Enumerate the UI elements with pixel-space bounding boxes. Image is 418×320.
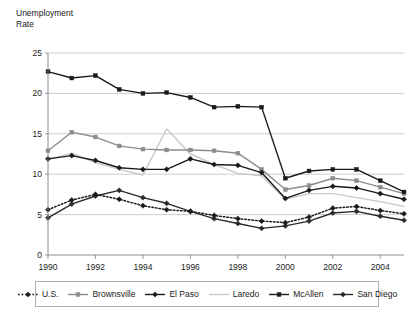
x-tick-label: 1994: [133, 262, 152, 272]
y-tick-label: 15: [33, 129, 43, 139]
x-tick-label: 1998: [228, 262, 247, 272]
legend-label: U.S.: [42, 289, 59, 299]
x-tick-label: 2004: [371, 262, 390, 272]
legend-label: McAllen: [293, 289, 323, 299]
legend-swatch-square-solid: [268, 290, 290, 299]
legend-label: Laredo: [233, 289, 259, 299]
y-tick-label: 0: [37, 250, 42, 260]
legend-swatch-none-solid: [208, 290, 230, 299]
chart-root: Unemployment Rate 0510152025 19901992199…: [0, 0, 418, 320]
legend-swatch-diamond-solid: [144, 290, 166, 299]
plot-area: 0510152025 19901992199419961998200020022…: [0, 0, 418, 320]
legend-item-laredo[interactable]: Laredo: [208, 289, 259, 299]
legend-swatch-diamond-dotted: [17, 290, 39, 299]
legend-item-brownsville[interactable]: Brownsville: [67, 289, 135, 299]
legend-label: Brownsville: [92, 289, 135, 299]
legend-item-san-diego[interactable]: San Diego: [332, 289, 397, 299]
legend-label: El Paso: [169, 289, 198, 299]
legend-swatch-diamond-solid: [332, 290, 354, 299]
x-tick-label: 2000: [276, 262, 295, 272]
legend-swatch-square-solid: [67, 290, 89, 299]
x-tick-label: 1990: [39, 262, 58, 272]
series-layer: [45, 70, 406, 231]
y-tick-label: 10: [33, 169, 43, 179]
chart-legend: U.S.BrownsvilleEl PasoLaredoMcAllenSan D…: [35, 281, 379, 307]
series-mcallen: [46, 70, 406, 194]
x-axis-ticks: 19901992199419961998200020022004: [39, 255, 390, 272]
gridlines: [48, 53, 404, 215]
x-tick-label: 2002: [323, 262, 342, 272]
series-san-diego: [45, 188, 406, 231]
legend-item-el-paso[interactable]: El Paso: [144, 289, 198, 299]
x-tick-label: 1996: [181, 262, 200, 272]
series-brownsville: [46, 130, 406, 195]
y-tick-label: 25: [33, 48, 43, 58]
legend-item-u-s[interactable]: U.S.: [17, 289, 59, 299]
x-tick-label: 1992: [86, 262, 105, 272]
axis-lines: [48, 53, 404, 255]
line-chart-svg: 0510152025 19901992199419961998200020022…: [0, 0, 418, 320]
legend-item-mcallen[interactable]: McAllen: [268, 289, 323, 299]
legend-label: San Diego: [357, 289, 397, 299]
y-axis-ticks: 0510152025: [33, 48, 48, 260]
y-tick-label: 20: [33, 88, 43, 98]
y-tick-label: 5: [37, 210, 42, 220]
